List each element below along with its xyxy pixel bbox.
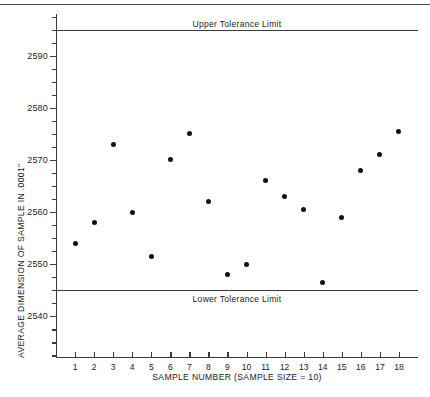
y-tick-minor [52,342,57,343]
data-point [130,210,135,215]
x-tick [266,352,267,358]
x-tick [399,352,400,358]
data-point [339,215,344,220]
data-point [358,168,363,173]
data-point [73,241,78,246]
y-tick-label: 2570 [27,155,48,165]
data-point [225,272,230,277]
x-axis-line [56,357,418,358]
data-point [244,262,249,267]
x-tick-label: 15 [337,362,346,372]
upper-tolerance-limit-line [56,30,418,31]
data-point [396,129,401,134]
upper-tolerance-limit-label: Upper Tolerance Limit [193,19,282,29]
y-tick-major [50,108,57,109]
lower-tolerance-limit-label: Lower Tolerance Limit [193,294,282,304]
x-tick-label: 18 [394,362,403,372]
x-axis-title: SAMPLE NUMBER (SAMPLE SIZE = 10) [56,372,418,382]
x-tick-label: 6 [168,362,173,372]
x-tick [247,352,248,358]
data-point [168,157,173,162]
data-point [149,254,154,259]
y-tick-minor [52,238,57,239]
y-tick-minor [52,17,57,18]
y-tick-minor [52,43,57,44]
x-tick [285,352,286,358]
y-tick-minor [52,134,57,135]
y-tick-major [50,264,57,265]
y-tick-major [50,212,57,213]
x-tick-label: 1 [73,362,78,372]
y-tick-minor [52,251,57,252]
x-tick-label: 17 [375,362,384,372]
y-tick-minor [52,147,57,148]
x-tick-label: 8 [206,362,211,372]
x-tick [189,352,190,358]
lower-tolerance-limit-line [56,290,418,291]
y-tick-minor [52,199,57,200]
data-point [263,178,268,183]
y-tick-label: 2550 [27,259,48,269]
x-tick [380,352,381,358]
x-tick [361,352,362,358]
y-tick-minor [52,186,57,187]
y-tick-minor [52,173,57,174]
top-divider-rule [0,4,430,5]
y-tick-label: 2590 [27,51,48,61]
y-tick-label: 2580 [27,103,48,113]
y-tick-minor [52,225,57,226]
y-tick-label: 2540 [27,311,48,321]
x-tick [227,352,228,358]
x-tick [170,352,171,358]
y-axis-title: AVERAGE DIMENSION OF SAMPLE IN .0001'' [16,163,26,358]
x-tick-label: 10 [242,362,251,372]
y-tick-label: 2560 [27,207,48,217]
x-tick [94,352,95,358]
y-tick-minor [52,355,57,356]
y-tick-minor [52,121,57,122]
data-point [206,199,211,204]
data-point [92,220,97,225]
data-point [320,280,325,285]
x-tick-label: 5 [149,362,154,372]
y-tick-minor [52,303,57,304]
x-tick [304,352,305,358]
x-tick-label: 16 [356,362,365,372]
y-tick-minor [52,82,57,83]
x-tick-label: 9 [225,362,230,372]
chart-figure: AVERAGE DIMENSION OF SAMPLE IN .0001'' 2… [0,0,430,397]
x-tick-label: 13 [299,362,308,372]
data-point [111,142,116,147]
x-tick [342,352,343,358]
data-point [282,194,287,199]
x-tick-label: 7 [187,362,192,372]
x-tick-label: 14 [318,362,327,372]
y-tick-minor [52,277,57,278]
y-axis-title-container: AVERAGE DIMENSION OF SAMPLE IN .0001'' [20,14,32,358]
y-tick-major [50,160,57,161]
data-point [301,207,306,212]
x-tick [75,352,76,358]
x-tick [113,352,114,358]
y-tick-minor [52,95,57,96]
y-tick-major [50,56,57,57]
data-point [187,131,192,136]
y-tick-minor [52,69,57,70]
y-tick-major [50,316,57,317]
data-point [377,152,382,157]
x-tick-label: 11 [261,362,270,372]
x-tick-label: 4 [130,362,135,372]
x-tick-label: 12 [280,362,289,372]
x-tick-label: 3 [111,362,116,372]
x-tick-label: 2 [92,362,97,372]
x-tick [132,352,133,358]
plot-area: 259025802570256025502540 123456789101112… [56,14,418,358]
x-tick [151,352,152,358]
y-tick-minor [52,329,57,330]
x-tick [323,352,324,358]
x-tick [208,352,209,358]
